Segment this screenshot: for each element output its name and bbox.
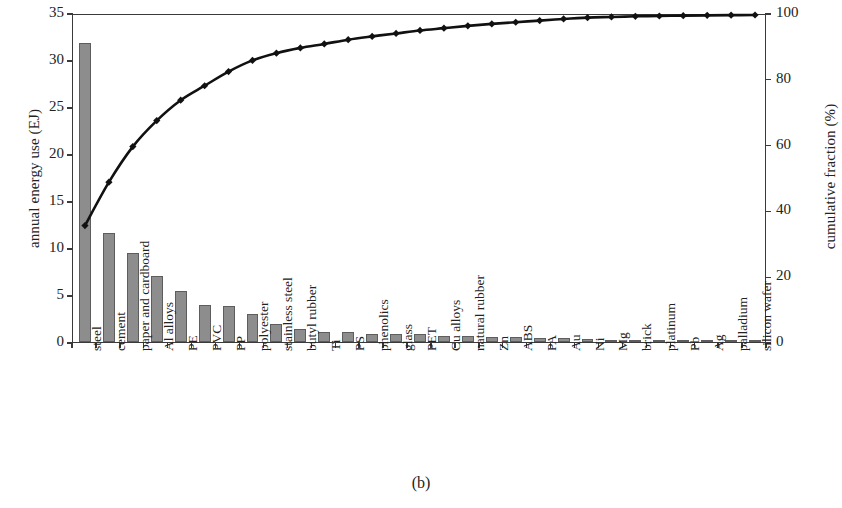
x-category-label-natural-rubber: natural rubber (472, 275, 488, 351)
y-right-tick-label-60: 60 (776, 136, 816, 153)
y-right-tick-label-40: 40 (776, 201, 816, 218)
x-category-label-brick: brick (639, 323, 655, 351)
x-category-label-stainless-steel: stainless steel (280, 277, 296, 351)
cumulative-marker-ni (584, 14, 591, 21)
x-tick-0 (71, 342, 72, 348)
y-right-tick-40 (765, 211, 771, 212)
x-category-label-polyester: polyester (256, 302, 272, 352)
x-category-label-ag: Ag (711, 335, 727, 352)
x-category-label-pb: Pb (687, 337, 703, 351)
x-category-label-al-alloys: Al alloys (161, 302, 177, 351)
x-category-label-cement: cement (113, 312, 129, 351)
cumulative-marker-polyester (249, 57, 256, 64)
y-left-tick-label-30: 30 (30, 51, 64, 68)
x-category-label-platinum: platinum (663, 303, 679, 351)
cumulative-marker-abs (512, 19, 519, 26)
x-category-label-phenolics: phenolics (376, 299, 392, 351)
x-category-label-au: Au (568, 335, 584, 352)
cumulative-marker-phenolics (369, 33, 376, 40)
cumulative-marker-natural-rubber (464, 22, 471, 29)
figure-container: annual energy use (EJ) cumulative fracti… (0, 0, 842, 508)
y-left-tick-label-35: 35 (30, 4, 64, 21)
x-category-label-paper-and-cardboard: paper and cardboard (137, 241, 153, 351)
cumulative-marker-glass (392, 30, 399, 37)
cumulative-marker-pa (536, 17, 543, 24)
cumulative-marker-ps (345, 36, 352, 43)
cumulative-marker-palladium (728, 12, 735, 19)
y-right-tick-80 (765, 79, 771, 80)
x-category-label-butyl-rubber: butyl rubber (304, 285, 320, 351)
x-category-label-pet: PET (424, 327, 440, 351)
cumulative-marker-zn (488, 20, 495, 27)
cumulative-marker-ag (704, 12, 711, 19)
y-left-tick-label-5: 5 (30, 286, 64, 303)
y-left-tick-10 (67, 248, 73, 249)
y-axis-right-title: cumulative fraction (%) (822, 47, 839, 307)
y-left-tick-25 (67, 107, 73, 108)
x-category-label-glass: glass (400, 324, 416, 351)
x-category-label-pvc: PVC (209, 325, 225, 351)
cumulative-marker-au (560, 15, 567, 22)
x-category-label-abs: ABS (520, 325, 536, 351)
y-right-tick-label-100: 100 (776, 4, 816, 21)
x-category-label-palladium: palladium (735, 297, 751, 351)
cumulative-marker-pet (416, 27, 423, 34)
y-right-tick-100 (765, 13, 771, 14)
x-category-label-pa: PA (544, 335, 560, 351)
x-category-label-mg: Mg (615, 332, 631, 351)
cumulative-marker-stainless-steel (273, 50, 280, 57)
figure-caption: (b) (0, 474, 842, 492)
y-left-tick-label-0: 0 (30, 333, 64, 350)
cumulative-marker-brick (632, 13, 639, 20)
y-right-tick-label-20: 20 (776, 267, 816, 284)
x-category-label-pp: PP (233, 336, 249, 351)
cumulative-marker-platinum (656, 12, 663, 19)
x-category-label-ps: PS (352, 336, 368, 351)
cumulative-marker-ti (321, 40, 328, 47)
y-left-tick-35 (67, 13, 73, 14)
x-category-label-ni: Ni (592, 338, 608, 352)
y-left-tick-label-10: 10 (30, 239, 64, 256)
cumulative-fraction-curve (73, 15, 767, 344)
x-category-label-zn: Zn (496, 336, 512, 351)
y-left-tick-30 (67, 60, 73, 61)
y-left-tick-15 (67, 201, 73, 202)
y-right-tick-60 (765, 145, 771, 146)
y-right-tick-20 (765, 277, 771, 278)
y-right-tick-label-80: 80 (776, 70, 816, 87)
y-left-tick-label-20: 20 (30, 145, 64, 162)
x-category-label-ti: Ti (328, 339, 344, 351)
x-category-label-steel: steel (89, 326, 105, 351)
y-left-tick-label-15: 15 (30, 192, 64, 209)
cumulative-marker-pb (680, 12, 687, 19)
y-right-tick-label-0: 0 (776, 333, 816, 350)
plot-area (72, 14, 766, 343)
x-category-label-pe: PE (185, 335, 201, 351)
x-category-label-silicon-wafer: silicon wafer (759, 281, 775, 351)
y-axis-left-title: annual energy use (EJ) (26, 49, 43, 309)
y-left-tick-5 (67, 295, 73, 296)
cumulative-marker-butyl-rubber (297, 44, 304, 51)
cumulative-line (85, 15, 755, 226)
y-left-tick-20 (67, 154, 73, 155)
cumulative-marker-silicon-wafer (751, 11, 758, 18)
x-category-label-cu-alloys: Cu alloys (448, 300, 464, 351)
y-left-tick-label-25: 25 (30, 98, 64, 115)
cumulative-marker-mg (608, 13, 615, 20)
cumulative-marker-cu-alloys (440, 25, 447, 32)
